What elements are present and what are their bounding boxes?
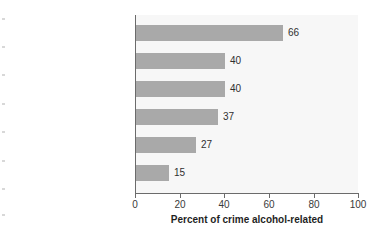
bar-child-abuse xyxy=(136,53,225,69)
bar-value-label: 40 xyxy=(230,82,241,96)
x-axis-tick-label: 80 xyxy=(308,199,319,211)
bar-value-label: 27 xyxy=(201,138,212,152)
x-axis-tick xyxy=(180,194,181,198)
bar-chart-figure: Intimate partner violence 66 Child abuse… xyxy=(0,0,379,236)
bar-value-label: 37 xyxy=(223,110,234,124)
x-axis-tick-label: 60 xyxy=(263,199,274,211)
x-axis-title: Percent of crime alcohol-related xyxy=(135,214,359,225)
bar-sexual-assault xyxy=(136,109,218,125)
x-axis-tick xyxy=(224,194,225,198)
x-axis-tick xyxy=(135,194,136,198)
x-axis-line xyxy=(135,193,359,194)
x-axis-tick-label: 20 xyxy=(174,199,185,211)
bar-value-label: 66 xyxy=(288,26,299,40)
bar-value-label: 15 xyxy=(174,166,185,180)
bar-value-label: 40 xyxy=(230,54,241,68)
x-axis-tick-label: 100 xyxy=(350,199,367,211)
bar-intimate-partner-violence xyxy=(136,25,283,41)
scan-edge-artifact xyxy=(0,0,10,236)
x-axis-tick-label: 40 xyxy=(218,199,229,211)
x-axis-tick-label: 0 xyxy=(132,199,138,211)
bar-physical-assault xyxy=(136,137,196,153)
x-axis-tick xyxy=(358,194,359,198)
bar-homicide xyxy=(136,81,225,97)
x-axis-tick xyxy=(314,194,315,198)
bar-robbery xyxy=(136,165,169,181)
x-axis-tick xyxy=(269,194,270,198)
